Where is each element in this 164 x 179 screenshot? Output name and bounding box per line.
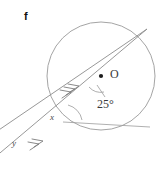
parallel-marks-lower	[28, 139, 43, 150]
geometry-figure: f O 25° x y	[0, 0, 164, 179]
base-ray	[63, 122, 150, 127]
part-label: f	[24, 11, 28, 22]
geometry-canvas	[0, 0, 164, 179]
given-angle-label: 25°	[97, 98, 114, 110]
angle-arc-x	[68, 105, 82, 120]
leader-line-25	[97, 85, 105, 97]
unknown-angle-x-label: x	[50, 113, 54, 122]
centre-label: O	[110, 68, 119, 80]
lower-line	[0, 29, 147, 158]
unknown-angle-y-label: y	[12, 139, 16, 148]
upper-line-through-centre	[0, 29, 147, 136]
centre-dot	[99, 74, 103, 78]
